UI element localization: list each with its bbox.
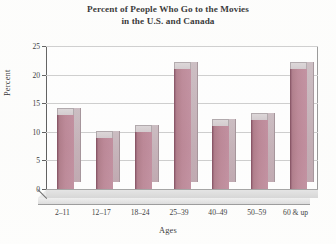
x-axis-tick-label: 50–59	[247, 208, 266, 217]
y-axis-tick-label: 20	[32, 70, 40, 79]
chart-title-line-1: Percent of People Who Go to the Movies	[0, 4, 336, 16]
floor-top-surface	[46, 189, 318, 198]
floor-front-edge	[38, 198, 310, 205]
bar-side-face	[152, 125, 159, 182]
y-axis-tick	[42, 160, 46, 161]
bar-front-face	[57, 115, 74, 189]
x-axis-tick-label: 60 & up	[283, 208, 308, 217]
y-axis-tick	[42, 46, 46, 47]
bar-front-face	[212, 126, 229, 189]
bar-top-face	[96, 131, 113, 138]
bar	[251, 120, 268, 189]
axis-depth-line	[38, 189, 47, 198]
bar-side-face	[113, 131, 120, 182]
plot-area: 0510152025	[46, 46, 318, 189]
chart-figure: Percent of People Who Go to the Movies i…	[0, 0, 336, 244]
x-axis-tick-label: 25–39	[170, 208, 189, 217]
bar-top-face	[57, 108, 74, 115]
bar-top-face	[135, 125, 152, 132]
x-axis-tick-label: 40–49	[208, 208, 227, 217]
y-axis-tick	[42, 132, 46, 133]
y-axis-label: Percent	[3, 69, 12, 96]
bar	[174, 69, 191, 189]
bar-side-face	[307, 62, 314, 182]
y-axis-tick	[42, 75, 46, 76]
y-axis-tick-label: 25	[32, 42, 40, 51]
y-axis-tick-label: 10	[32, 127, 40, 136]
x-axis-tick-label: 12–17	[92, 208, 111, 217]
bar-front-face	[174, 69, 191, 189]
bar-top-face	[251, 113, 268, 120]
chart-title: Percent of People Who Go to the Movies i…	[0, 4, 336, 27]
bar-front-face	[251, 120, 268, 189]
bar-side-face	[268, 113, 275, 182]
y-axis-tick	[42, 103, 46, 104]
gridline	[46, 46, 318, 47]
chart-title-line-2: in the U.S. and Canada	[0, 16, 336, 28]
bar-top-face	[174, 62, 191, 69]
bar-side-face	[229, 119, 236, 182]
bar-front-face	[135, 132, 152, 189]
bar-front-face	[290, 69, 307, 189]
y-axis-tick-label: 5	[36, 156, 40, 165]
x-axis-tick-label: 18–24	[131, 208, 150, 217]
bar-side-face	[191, 62, 198, 182]
bar	[96, 138, 113, 189]
y-axis-tick-label: 15	[32, 99, 40, 108]
bar-side-face	[74, 108, 81, 182]
bar-top-face	[290, 62, 307, 69]
bar	[135, 132, 152, 189]
bar-top-face	[212, 119, 229, 126]
bar-front-face	[96, 138, 113, 189]
bar	[212, 126, 229, 189]
x-axis-tick-label: 2–11	[55, 208, 70, 217]
x-axis-label: Ages	[0, 226, 336, 235]
bar	[290, 69, 307, 189]
bar	[57, 115, 74, 189]
